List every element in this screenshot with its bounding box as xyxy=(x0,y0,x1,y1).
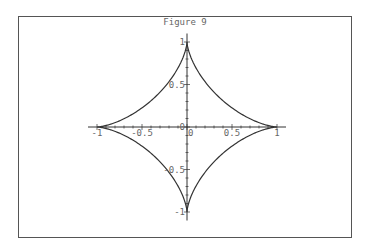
x-tick-label: -1 xyxy=(92,128,103,138)
plot-area: -1-0.500.5110.50-0.5-1 xyxy=(0,0,369,247)
y-tick-label: -1 xyxy=(174,207,185,217)
x-tick-label: 0 xyxy=(188,128,193,138)
x-tick-label: -0.5 xyxy=(131,128,153,138)
y-tick-label: -0.5 xyxy=(163,165,185,175)
y-tick-label: 1 xyxy=(180,37,185,47)
axes xyxy=(88,34,286,221)
x-tick-label: 1 xyxy=(274,128,279,138)
y-tick-label: 0 xyxy=(180,122,185,132)
x-tick-label: 0.5 xyxy=(224,128,240,138)
y-tick-label: 0.5 xyxy=(169,80,185,90)
